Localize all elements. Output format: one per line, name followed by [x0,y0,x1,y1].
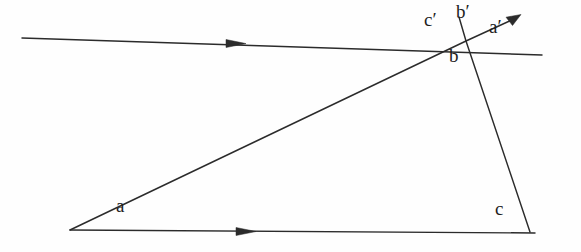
angle-label-a-bottom-left: a [116,196,124,215]
geometry-figure: a c b c′ b′ a′ [0,0,581,252]
angle-label-c-prime: c′ [424,10,437,29]
upper-parallel-arrow-icon [226,40,246,48]
triangle-side-ab [70,41,466,230]
angle-label-b-prime: b′ [456,2,470,21]
geometry-canvas [0,0,581,252]
angle-label-c-bottom-right: c [495,199,503,218]
upper-parallel-line [22,38,542,55]
lower-parallel-line [70,230,535,233]
transversal-ray-arrow-icon [506,15,521,26]
angle-label-a-prime: a′ [489,17,502,36]
angle-label-b-vertex: b [449,46,459,65]
lower-parallel-arrow-icon [236,228,256,236]
